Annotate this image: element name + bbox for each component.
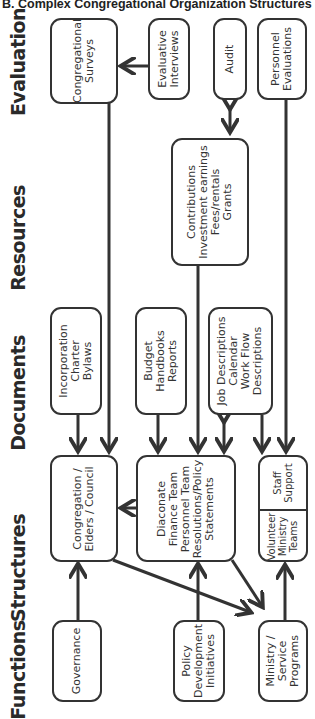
node-label: Job DescriptionsCalendarWork FlowDescrip… <box>217 317 265 406</box>
node-policy-development: PolicyDevelopmentInitiatives <box>173 620 225 702</box>
node-congregational-surveys: CongregationalSurveys <box>50 18 118 104</box>
node-diaconate: DiaconateFinance TeamPersonnel TeamResol… <box>136 455 236 562</box>
node-label: ContributionsInvestment earningsFees/ren… <box>186 145 234 258</box>
node-label: BudgetHandbooksReports <box>143 330 179 392</box>
node-label: Ministry /ServicePrograms <box>265 635 301 687</box>
node-label: Audit <box>224 45 236 74</box>
node-label: Governance <box>71 628 83 694</box>
node-label: IncorporationCharterBylaws <box>58 324 94 398</box>
node-personnel-evaluations: PersonnelEvaluations <box>257 18 307 100</box>
node-budget: BudgetHandbooksReports <box>135 307 187 415</box>
node-label: StaffSupport <box>272 463 294 503</box>
node-label: PersonnelEvaluations <box>270 27 294 91</box>
node-ministry-service: Ministry /ServicePrograms <box>258 620 308 702</box>
node-volunteer-staff: StaffSupport VolunteerMinistryTeams <box>258 455 308 562</box>
node-label: CongregationalSurveys <box>72 19 96 103</box>
node-evaluative-interviews: EvaluativeInterviews <box>148 18 190 100</box>
node-label: VolunteerMinistryTeams <box>267 513 300 561</box>
node-job-descriptions: Job DescriptionsCalendarWork FlowDescrip… <box>208 307 273 415</box>
node-label: Congregation /Elders / Council <box>72 466 96 551</box>
node-contributions: ContributionsInvestment earningsFees/ren… <box>171 138 249 266</box>
edge-diaconate-to-ministry <box>232 560 262 606</box>
node-label: PolicyDevelopmentInitiatives <box>181 624 217 698</box>
node-volunteer-ministry: VolunteerMinistryTeams <box>260 511 306 562</box>
node-label: DiaconateFinance TeamPersonnel TeamResol… <box>156 459 216 558</box>
node-staff-support: StaffSupport <box>260 457 306 509</box>
node-audit: Audit <box>213 18 247 100</box>
node-governance: Governance <box>52 620 102 702</box>
edge-elders-to-ministry <box>113 560 250 612</box>
node-congregation-elders: Congregation /Elders / Council <box>50 455 118 562</box>
node-incorporation: IncorporationCharterBylaws <box>50 307 102 415</box>
node-label: EvaluativeInterviews <box>157 30 181 88</box>
